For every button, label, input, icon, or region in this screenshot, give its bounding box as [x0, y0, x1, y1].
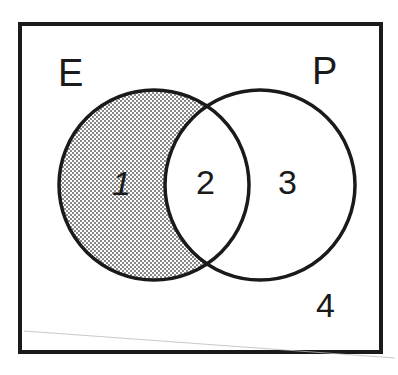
set-label-p: P [312, 50, 337, 92]
set-label-e: E [58, 52, 83, 94]
region-label-4: 4 [316, 286, 335, 324]
venn-diagram: E P 1 2 3 4 [0, 0, 398, 375]
region-label-1: 1 [112, 164, 131, 202]
region-label-3: 3 [278, 163, 297, 201]
region-label-2: 2 [196, 163, 215, 201]
